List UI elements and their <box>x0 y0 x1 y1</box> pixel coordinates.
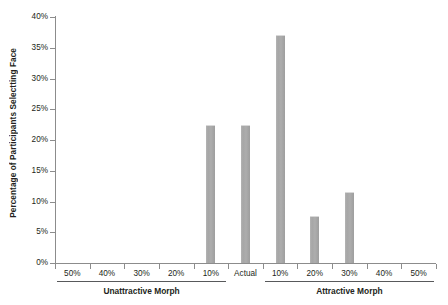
group-label: Attractive Morph <box>263 286 436 296</box>
chart-figure: Percentage of Participants Selectting Fa… <box>0 0 448 305</box>
y-tick-mark <box>50 202 55 203</box>
x-axis-line <box>55 263 436 264</box>
group-underline <box>57 281 226 282</box>
bar <box>345 192 354 263</box>
bar <box>276 35 285 263</box>
bar <box>206 125 215 263</box>
y-tick-label: 30% <box>18 74 48 83</box>
y-axis-title-text: Percentage of Participants Selectting Fa… <box>9 48 18 218</box>
x-tick-label: 50% <box>397 269 441 278</box>
y-tick-label: 15% <box>18 166 48 175</box>
y-tick-mark <box>50 140 55 141</box>
bar <box>310 216 319 263</box>
y-tick-label: 0% <box>18 258 48 267</box>
bar <box>241 125 250 263</box>
y-tick-mark <box>50 79 55 80</box>
group-underline <box>265 281 434 282</box>
y-tick-mark <box>50 109 55 110</box>
y-axis-title: Percentage of Participants Selectting Fa… <box>0 0 26 265</box>
y-tick-mark <box>50 17 55 18</box>
y-tick-label: 20% <box>18 135 48 144</box>
y-tick-label: 25% <box>18 104 48 113</box>
y-tick-label: 35% <box>18 43 48 52</box>
y-tick-label: 10% <box>18 197 48 206</box>
y-tick-mark <box>50 171 55 172</box>
group-label: Unattractive Morph <box>55 286 228 296</box>
y-tick-mark <box>50 232 55 233</box>
y-axis-line <box>55 16 56 264</box>
y-tick-mark <box>50 48 55 49</box>
y-tick-label: 5% <box>18 227 48 236</box>
y-tick-label: 40% <box>18 12 48 21</box>
